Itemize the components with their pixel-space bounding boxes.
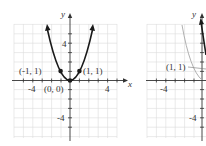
left-graph: y x 4 -4 -4 4 (-1, 1) (0, 0) (1, 1): [12, 9, 132, 141]
right-axes: [146, 16, 206, 141]
right-y-tick-neg4: -4: [189, 113, 197, 123]
curve-arrow-right-icon: [90, 24, 96, 31]
right-grid: [147, 24, 206, 138]
y-tick-4: 4: [62, 39, 67, 49]
y-axis-label: y: [60, 9, 65, 19]
x-tick-4: 4: [105, 84, 110, 94]
figure-canvas: y x 4 -4 -4 4 (-1, 1) (0, 0) (1, 1): [0, 0, 206, 146]
point-1-1: [77, 69, 82, 74]
y-tick-neg4: -4: [57, 113, 65, 123]
point-label-neg1-1: (-1, 1): [19, 66, 42, 76]
point-0-0: [68, 78, 73, 83]
point-label-0-0: (0, 0): [44, 84, 64, 94]
right-x-tick-neg4: -4: [160, 84, 168, 94]
steep-curve-arrow-icon: [199, 18, 204, 25]
x-tick-neg4: -4: [28, 84, 36, 94]
right-y-axis-arrow-icon: [200, 13, 204, 18]
point-neg1-1: [58, 69, 63, 74]
right-y-axis-label: y: [191, 9, 196, 19]
x-axis-label: x: [127, 79, 132, 89]
leader-line: [188, 67, 206, 69]
right-point-label-1-1: (1, 1): [166, 62, 186, 72]
curve-arrow-left-icon: [45, 24, 51, 31]
point-label-1-1: (1, 1): [83, 66, 103, 76]
right-graph: y (1, 1) -4 -4: [146, 9, 206, 141]
y-axis-arrow-icon: [68, 13, 72, 18]
